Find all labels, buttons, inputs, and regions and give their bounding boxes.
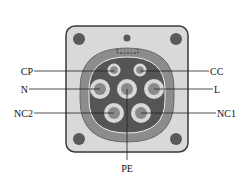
pin-cc — [134, 64, 147, 77]
top-small-hole — [124, 35, 131, 42]
label-nc1: NC1 — [217, 108, 236, 119]
pin-cp — [108, 64, 121, 77]
label-cp: CP — [21, 66, 34, 77]
label-l: L — [214, 84, 220, 95]
label-n: N — [21, 84, 28, 95]
screw-hole-bottom-left — [73, 133, 85, 145]
screw-hole-top-left — [73, 33, 85, 45]
connector-diagram: CP CC N PE L NC2 NC1 — [0, 0, 243, 183]
label-cc: CC — [210, 66, 224, 77]
screw-hole-top-right — [170, 33, 182, 45]
label-nc2: NC2 — [14, 108, 33, 119]
screw-hole-bottom-right — [170, 133, 182, 145]
label-pe: PE — [121, 163, 133, 174]
